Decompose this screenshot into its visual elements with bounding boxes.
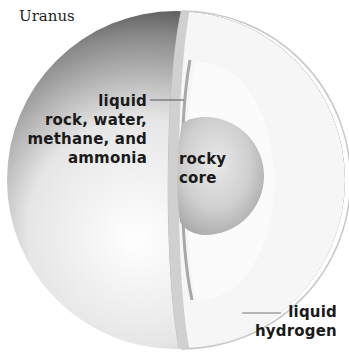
core-label: rocky core: [179, 150, 226, 188]
mantle-label-line: ammonia: [20, 149, 147, 168]
mantle-label-line: rock, water,: [20, 111, 147, 130]
core-label-line: rocky: [179, 150, 226, 169]
diagram-title: Uranus: [19, 7, 75, 25]
hydrogen-label-line: liquid: [253, 303, 337, 322]
mantle-label-line: methane, and: [20, 130, 147, 149]
mantle-label-line: liquid: [20, 92, 147, 111]
hydrogen-label: liquid hydrogen: [253, 303, 337, 341]
core-label-line: core: [179, 169, 226, 188]
mantle-label: liquid rock, water, methane, and ammonia: [20, 92, 147, 168]
hydrogen-label-line: hydrogen: [253, 322, 337, 341]
